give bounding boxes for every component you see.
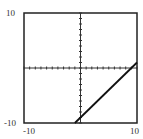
series-line [75, 63, 137, 124]
plot-area [0, 0, 143, 139]
x-max-label: 10 [130, 126, 139, 136]
x-min-label: -10 [23, 126, 35, 136]
y-min-label: -10 [4, 118, 16, 128]
y-max-label: 10 [6, 8, 15, 18]
